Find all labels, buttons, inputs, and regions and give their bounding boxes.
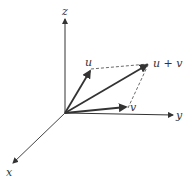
y-axis-label: y	[175, 109, 183, 122]
y-axis	[65, 113, 173, 115]
x-axis	[13, 113, 65, 163]
x-axis-label: x	[6, 166, 13, 179]
v-label: v	[130, 101, 137, 114]
z-axis-label: z	[61, 5, 68, 18]
vector-diagram: z y x u v u + v	[0, 0, 193, 188]
u-label: u	[85, 56, 92, 69]
u-plus-v-label: u + v	[153, 57, 183, 70]
dashed-u-to-sum	[91, 64, 148, 69]
